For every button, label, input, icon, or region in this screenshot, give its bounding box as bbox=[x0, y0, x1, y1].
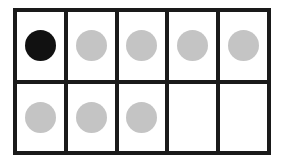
gray-counter-icon bbox=[228, 30, 259, 61]
gray-counter-icon bbox=[76, 30, 107, 61]
gray-counter-icon bbox=[126, 30, 157, 61]
ten-frame-cell bbox=[119, 12, 166, 80]
gray-counter-icon bbox=[126, 102, 157, 133]
black-counter-icon bbox=[25, 30, 56, 61]
gray-counter-icon bbox=[177, 30, 208, 61]
ten-frame-cell bbox=[169, 84, 216, 152]
ten-frame-cell bbox=[220, 84, 267, 152]
gray-counter-icon bbox=[76, 102, 107, 133]
ten-frame-cell bbox=[68, 12, 115, 80]
gray-counter-icon bbox=[25, 102, 56, 133]
ten-frame-cell bbox=[119, 84, 166, 152]
ten-frame-cell bbox=[17, 12, 64, 80]
ten-frame-cell bbox=[17, 84, 64, 152]
ten-frame-cell bbox=[68, 84, 115, 152]
ten-frame-cell bbox=[220, 12, 267, 80]
ten-frame-cell bbox=[169, 12, 216, 80]
ten-frame bbox=[13, 8, 271, 155]
